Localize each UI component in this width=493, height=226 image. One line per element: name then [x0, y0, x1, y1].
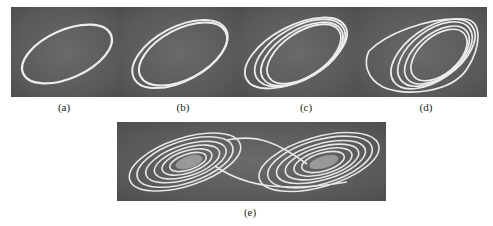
panel-d [355, 7, 487, 97]
double-scroll-trace-e [117, 122, 386, 201]
panel-e-label: (e) [230, 206, 270, 218]
limit-cycle-trace-c [238, 7, 355, 97]
chaotic-attractor-trace-d [355, 7, 487, 97]
panel-e [117, 122, 386, 201]
panel-c-label: (c) [286, 101, 326, 113]
limit-cycle-trace-b [120, 7, 238, 97]
limit-cycle-trace-a [11, 7, 120, 97]
panel-d-label: (d) [406, 101, 446, 113]
panel-b-label: (b) [163, 101, 203, 113]
panel-a [11, 7, 120, 97]
panel-a-label: (a) [44, 101, 84, 113]
panel-b [120, 7, 238, 97]
panel-c [238, 7, 355, 97]
